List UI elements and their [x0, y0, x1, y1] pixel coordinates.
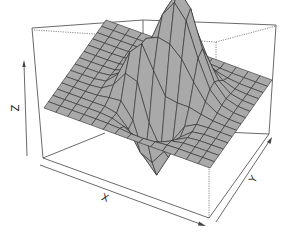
y-axis-label: Y — [246, 173, 260, 186]
x-axis: X — [40, 165, 206, 226]
surface-mesh — [44, 0, 272, 175]
x-axis-arrow-icon — [198, 222, 206, 227]
z-axis: Z — [10, 60, 27, 156]
z-axis-arrow-icon — [22, 60, 25, 67]
z-axis-label: Z — [10, 104, 21, 111]
surface-plot: Z X Y — [0, 0, 293, 244]
y-axis: Y — [216, 137, 272, 222]
x-axis-label: X — [100, 191, 110, 204]
